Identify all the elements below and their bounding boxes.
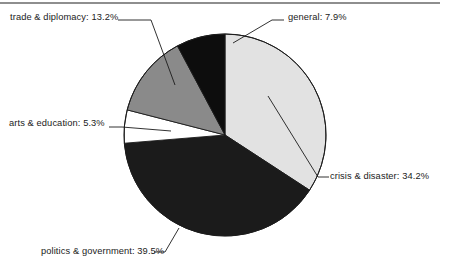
pie-chart-canvas <box>0 0 449 271</box>
pie-slice-group <box>124 34 326 236</box>
slice-label-crisis-disaster: crisis & disaster: 34.2% <box>330 171 429 181</box>
slice-label-arts-education: arts & education: 5.3% <box>9 118 105 128</box>
slice-label-general: general: 7.9% <box>288 12 347 22</box>
slice-label-politics-government: politics & government: 39.5% <box>41 246 164 256</box>
slice-label-trade-diplomacy: trade & diplomacy: 13.2% <box>10 12 118 22</box>
pie-chart-figure: trade & diplomacy: 13.2% general: 7.9% c… <box>0 0 449 271</box>
